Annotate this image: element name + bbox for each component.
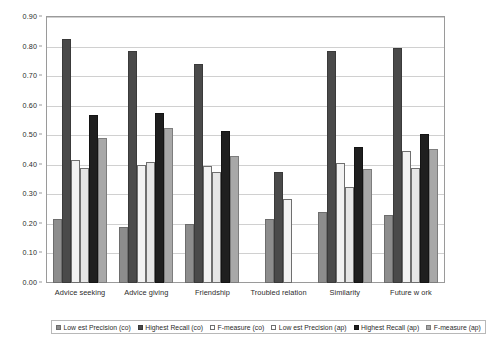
- bar[interactable]: [80, 168, 89, 283]
- x-axis: Advice seekingAdvice givingFriendshipTro…: [47, 288, 444, 302]
- bar[interactable]: [411, 168, 420, 283]
- chart-legend: Low est Precision (co)Highest Recall (co…: [51, 320, 486, 334]
- y-tick-mark: [39, 163, 42, 164]
- y-axis: 0.000.100.200.300.400.500.600.700.800.90: [0, 16, 42, 283]
- y-tick-mark: [39, 16, 42, 17]
- y-tick-label: 0.00: [23, 278, 37, 287]
- bar-group: [246, 17, 312, 283]
- x-axis-category-label: Similarity: [330, 288, 360, 297]
- bar[interactable]: [164, 128, 173, 283]
- y-tick-label: 0.70: [23, 71, 37, 80]
- bar[interactable]: [137, 165, 146, 283]
- legend-entry[interactable]: Low est Precision (co): [56, 324, 131, 331]
- bar[interactable]: [128, 51, 137, 283]
- y-tick-mark: [39, 75, 42, 76]
- bar[interactable]: [155, 113, 164, 283]
- bar[interactable]: [71, 160, 80, 283]
- y-tick-mark: [39, 45, 42, 46]
- y-tick-label: 0.40: [23, 159, 37, 168]
- y-tick-mark: [39, 252, 42, 253]
- legend-entry[interactable]: F-measure (ap): [426, 324, 481, 331]
- y-tick-label: 0.90: [23, 12, 37, 21]
- legend-entry[interactable]: Highest Recall (co): [138, 324, 203, 331]
- legend-entry[interactable]: F-measure (co): [210, 324, 264, 331]
- bar-group: [179, 17, 245, 283]
- bar[interactable]: [384, 215, 393, 283]
- bar-group: [312, 17, 378, 283]
- bar[interactable]: [327, 51, 336, 283]
- bar[interactable]: [62, 39, 71, 283]
- bar-group: [47, 17, 113, 283]
- bar[interactable]: [345, 187, 354, 283]
- bar[interactable]: [274, 172, 283, 283]
- legend-swatch-icon: [271, 325, 276, 330]
- x-axis-category-label: Advice giving: [124, 288, 168, 297]
- legend-swatch-icon: [354, 325, 359, 330]
- y-tick-label: 0.80: [23, 41, 37, 50]
- bar[interactable]: [89, 115, 98, 283]
- y-tick-mark: [39, 134, 42, 135]
- bar[interactable]: [393, 48, 402, 283]
- bar[interactable]: [212, 172, 221, 283]
- bar[interactable]: [429, 149, 438, 283]
- legend-label: Highest Recall (co): [145, 324, 203, 331]
- bar[interactable]: [265, 219, 274, 283]
- y-tick-label: 0.30: [23, 189, 37, 198]
- legend-label: Highest Recall (ap): [361, 324, 419, 331]
- bar-group: [378, 17, 444, 283]
- bar[interactable]: [221, 131, 230, 283]
- legend-label: Low est Precision (co): [64, 324, 131, 331]
- bar[interactable]: [230, 156, 239, 283]
- bar[interactable]: [146, 162, 155, 283]
- y-tick-mark: [39, 193, 42, 194]
- y-tick-mark: [39, 222, 42, 223]
- bar[interactable]: [354, 147, 363, 283]
- legend-entry[interactable]: Highest Recall (ap): [354, 324, 420, 331]
- legend-label: F-measure (ap): [434, 324, 481, 331]
- bar[interactable]: [119, 227, 128, 283]
- legend-label: Low est Precision (ap): [279, 324, 347, 331]
- y-tick-label: 0.10: [23, 248, 37, 257]
- bar[interactable]: [363, 169, 372, 283]
- bar[interactable]: [420, 134, 429, 283]
- y-tick-mark: [39, 282, 42, 283]
- legend-swatch-icon: [56, 325, 61, 330]
- y-tick-label: 0.20: [23, 218, 37, 227]
- legend-swatch-icon: [210, 325, 215, 330]
- bars-layer: [47, 17, 444, 283]
- y-tick-mark: [39, 104, 42, 105]
- y-tick-label: 0.50: [23, 130, 37, 139]
- bar[interactable]: [185, 224, 194, 283]
- x-axis-category-label: Friendship: [195, 288, 230, 297]
- y-tick-label: 0.60: [23, 100, 37, 109]
- bar[interactable]: [336, 163, 345, 283]
- legend-entry[interactable]: Low est Precision (ap): [271, 324, 346, 331]
- legend-swatch-icon: [138, 325, 143, 330]
- x-axis-category-label: Advice seeking: [55, 288, 105, 297]
- bar-group: [113, 17, 179, 283]
- bar[interactable]: [203, 166, 212, 283]
- legend-swatch-icon: [426, 325, 431, 330]
- bar[interactable]: [318, 212, 327, 283]
- x-axis-category-label: Troubled relation: [251, 288, 307, 297]
- bar[interactable]: [402, 151, 411, 283]
- x-axis-category-label: Future w ork: [390, 288, 432, 297]
- bar[interactable]: [98, 138, 107, 283]
- bar[interactable]: [53, 219, 62, 283]
- legend-label: F-measure (co): [218, 324, 265, 331]
- bar[interactable]: [283, 199, 292, 283]
- bar[interactable]: [194, 64, 203, 283]
